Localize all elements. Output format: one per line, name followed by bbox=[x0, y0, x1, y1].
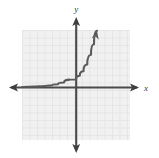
graph-figure: y x bbox=[0, 0, 159, 158]
y-axis-label: y bbox=[73, 4, 78, 14]
x-axis-label: x bbox=[143, 83, 148, 93]
coordinate-plane-svg: y x bbox=[0, 0, 159, 158]
